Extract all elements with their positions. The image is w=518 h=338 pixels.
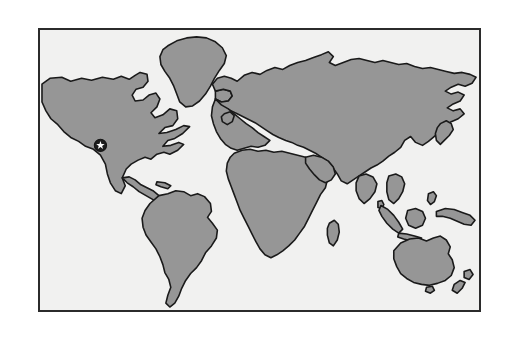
location-star-marker[interactable] — [94, 139, 106, 151]
landmass-borneo — [406, 208, 426, 228]
world-map-figure — [0, 0, 518, 338]
world-map-svg — [40, 30, 479, 310]
map-frame — [38, 28, 481, 312]
landmass-tasmania — [425, 286, 434, 293]
